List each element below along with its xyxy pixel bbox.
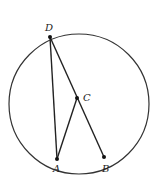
point-B-dot: [102, 155, 106, 159]
point-D-dot: [48, 35, 52, 39]
point-C-dot: [75, 96, 79, 100]
segment-DA: [50, 37, 57, 159]
point-A-dot: [55, 157, 59, 161]
segment-AC: [57, 98, 77, 159]
label-B: B: [101, 163, 109, 174]
label-A: A: [52, 163, 60, 174]
circle-diagram: D C A B: [0, 0, 156, 182]
label-D: D: [44, 22, 53, 33]
label-C: C: [83, 92, 91, 103]
circle: [9, 34, 149, 174]
